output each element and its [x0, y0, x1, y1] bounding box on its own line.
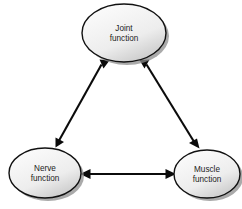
node-muscle-label-line2: function [193, 175, 222, 184]
node-nerve-label-line2: function [31, 174, 60, 183]
relationship-diagram: Joint function Nerve function Muscle fun… [0, 0, 242, 209]
node-nerve-label-line1: Nerve [34, 164, 56, 173]
arrow-head-toward-muscle-diag [189, 139, 200, 149]
edge-joint-muscle [140, 60, 200, 149]
edge-nerve-joint [56, 60, 110, 148]
node-muscle-function[interactable]: Muscle function [174, 150, 242, 201]
edge-joint-muscle-line [147, 65, 195, 143]
diagram-canvas: Joint function Nerve function Muscle fun… [0, 0, 242, 209]
node-joint-label-line1: Joint [115, 24, 133, 33]
node-joint-ellipse[interactable] [82, 4, 166, 62]
node-muscle-ellipse[interactable] [174, 150, 240, 198]
node-nerve-function[interactable]: Nerve function [9, 148, 84, 201]
node-joint-function[interactable]: Joint function [82, 4, 169, 65]
edge-nerve-muscle [80, 169, 176, 179]
node-muscle-label-line1: Muscle [194, 165, 220, 174]
node-joint-label-line2: function [110, 34, 139, 43]
node-nerve-ellipse[interactable] [9, 148, 81, 198]
edge-nerve-joint-line [59, 65, 102, 142]
